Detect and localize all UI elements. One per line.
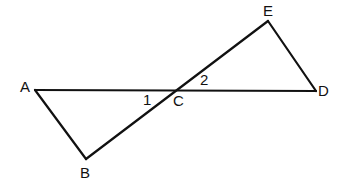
point-label-d: D (318, 82, 329, 99)
segment-ab (35, 90, 86, 159)
point-label-e: E (263, 2, 273, 19)
point-label-a: A (20, 78, 30, 95)
point-label-b: B (80, 164, 90, 181)
angle-label-2: 2 (200, 71, 208, 88)
segment-ed (268, 21, 316, 91)
angle-label-1: 1 (143, 91, 151, 108)
geometry-diagram: A B C D E 1 2 (0, 0, 344, 186)
point-label-c: C (173, 92, 184, 109)
